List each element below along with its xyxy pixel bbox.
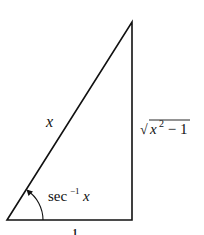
angle-label: sec −1 x	[48, 186, 90, 204]
adjacent-label: 1	[73, 227, 78, 235]
angle-arrow-icon	[27, 190, 34, 197]
hypotenuse-label: x	[45, 113, 53, 130]
radical-sign: √	[140, 122, 148, 137]
opposite-var: x	[149, 121, 157, 137]
angle-var: x	[82, 188, 90, 204]
angle-func: sec	[48, 188, 67, 204]
opposite-label: √ x 2 − 1	[140, 118, 190, 137]
opposite-rest: − 1	[164, 121, 187, 137]
angle-exponent: −1	[70, 186, 80, 196]
right-triangle-diagram: x 1 √ x 2 − 1 sec −1 x	[0, 0, 204, 235]
